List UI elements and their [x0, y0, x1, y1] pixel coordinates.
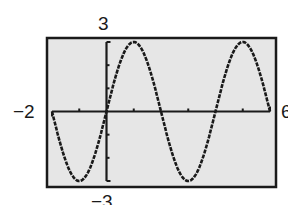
- xmax-label: 6: [281, 102, 288, 121]
- ymax-label: 3: [98, 14, 109, 33]
- ymin-label: −3: [91, 192, 113, 205]
- graphing-calculator-screen: [0, 0, 288, 205]
- xmin-label: −2: [13, 102, 35, 121]
